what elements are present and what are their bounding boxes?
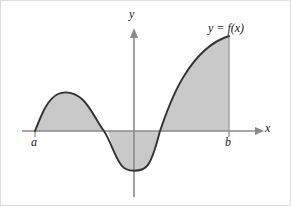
curve-label: y = f(x)	[208, 21, 244, 36]
signed-area-diagram	[0, 0, 291, 206]
figure-border	[1, 1, 291, 206]
y-axis-arrowhead	[130, 28, 138, 38]
x-axis-arrowhead	[255, 127, 264, 135]
y-axis-label: y	[129, 7, 134, 22]
upper-bound-label-b: b	[225, 135, 231, 150]
x-axis-label: x	[265, 121, 270, 136]
lower-bound-label-a: a	[31, 135, 37, 150]
figure-container: y x a b y = f(x)	[0, 0, 291, 206]
